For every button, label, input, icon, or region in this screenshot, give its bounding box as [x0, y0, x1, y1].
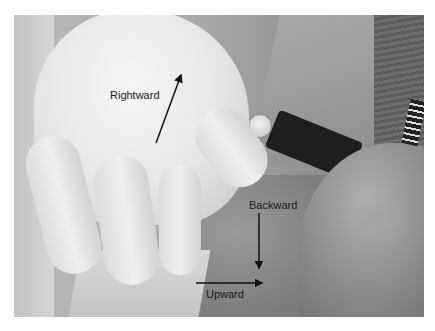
rightward-arrow-icon: [156, 75, 181, 143]
backward-label: Backward: [249, 199, 297, 211]
rightward-label: Rightward: [110, 89, 160, 101]
upward-label: Upward: [206, 288, 244, 300]
direction-arrows: [0, 0, 435, 331]
